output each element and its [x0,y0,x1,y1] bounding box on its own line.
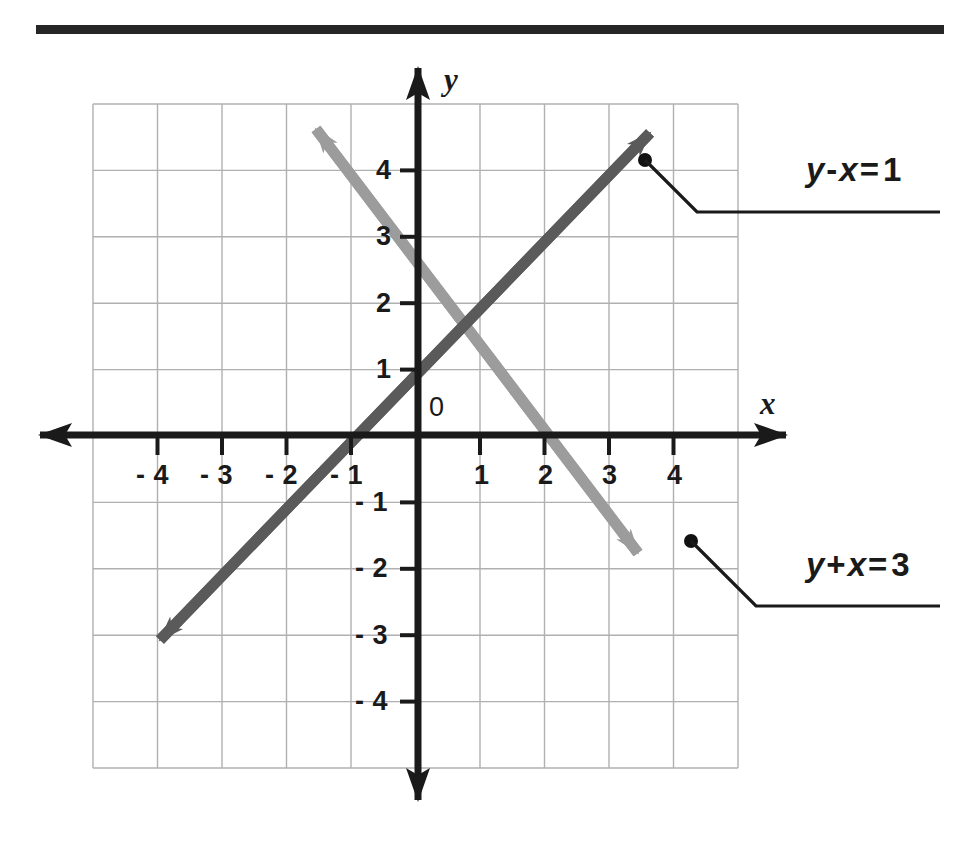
eq2-constant: 3 [889,546,911,583]
top-rule [36,25,944,34]
x-tick-label-3: 3 [602,462,618,489]
eq1-operator-minus: - [824,151,839,188]
x-tick-label-1: 1 [474,462,490,489]
eq2-term-y: y [806,546,824,583]
equation-label-line-1: y-x=1 [806,153,903,186]
graph-figure: y x 0 - 4 - 3 - 2 - 1 1 2 3 4 4 3 2 1 - … [0,0,979,843]
y-axis-label: y [444,64,458,95]
x-tick-label--1: - 1 [330,462,363,489]
eq1-term-x: x [839,151,857,188]
origin-label: 0 [429,394,444,421]
eq1-term-y: y [806,151,824,188]
y-tick-label--2: - 2 [355,555,388,582]
x-tick-label-4: 4 [667,462,683,489]
y-tick-label-2: 2 [376,290,392,317]
eq1-operator-equals: = [858,151,881,188]
x-tick-label-2: 2 [538,462,554,489]
y-tick-label--1: - 1 [355,489,388,516]
y-tick-label-3: 3 [376,223,392,250]
y-tick-label-4: 4 [376,157,392,184]
coordinate-plane-svg [0,0,979,843]
eq2-operator-equals: = [866,546,889,583]
y-tick-label--4: - 4 [355,688,388,715]
y-tick-label-1: 1 [376,356,392,383]
x-tick-label--4: - 4 [136,462,169,489]
x-tick-label--3: - 3 [200,462,233,489]
x-axis-label: x [760,388,776,419]
x-tick-label--2: - 2 [265,462,298,489]
eq1-constant: 1 [881,151,903,188]
eq2-term-x: x [848,546,866,583]
y-tick-label--3: - 3 [355,622,388,649]
equation-label-line-2: y+x=3 [806,548,912,581]
eq2-operator-plus: + [824,546,847,583]
line-y-minus-x-equals-1-tail [160,133,650,640]
